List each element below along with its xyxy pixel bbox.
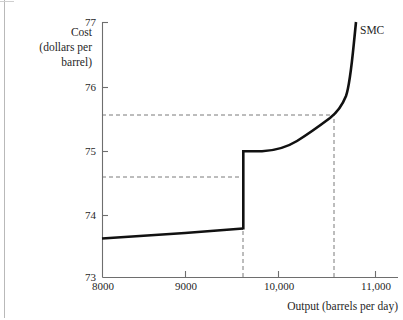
x-axis-tick-labels: 8000 9000 10,000 11,000 bbox=[92, 280, 391, 292]
x-tick-label-10000: 10,000 bbox=[264, 280, 295, 292]
smc-curve-lower-branch bbox=[102, 229, 243, 239]
smc-chart-svg: 77 76 75 74 73 8000 9000 10,000 11,000 S… bbox=[0, 0, 403, 320]
y-axis-title-line-1: Cost bbox=[71, 26, 93, 38]
smc-curve-group bbox=[102, 22, 356, 239]
x-tick-label-9000: 9000 bbox=[175, 280, 198, 292]
x-tick-label-8000: 8000 bbox=[92, 280, 115, 292]
y-tick-label-76: 76 bbox=[85, 81, 97, 93]
x-tick-label-11000: 11,000 bbox=[361, 280, 391, 292]
chart-figure: 77 76 75 74 73 8000 9000 10,000 11,000 S… bbox=[0, 0, 403, 320]
x-axis-title: Output (barrels per day) bbox=[287, 300, 398, 313]
smc-series-label: SMC bbox=[360, 24, 385, 36]
y-axis-title-line-3: barrel) bbox=[61, 56, 92, 69]
x-axis-ticks bbox=[186, 271, 376, 277]
y-axis-title: Cost (dollars per barrel) bbox=[39, 26, 93, 69]
y-tick-label-74: 74 bbox=[85, 209, 97, 221]
y-tick-label-75: 75 bbox=[85, 145, 97, 157]
y-axis-title-line-2: (dollars per bbox=[39, 41, 92, 54]
axes bbox=[103, 22, 399, 278]
smc-curve-upper-branch bbox=[242, 22, 356, 151]
